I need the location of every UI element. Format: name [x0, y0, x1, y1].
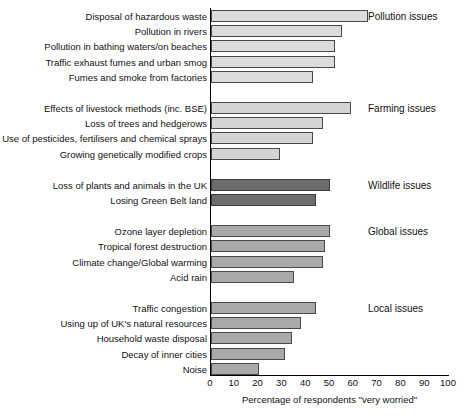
x-tick-label: 10	[229, 377, 240, 388]
bar	[211, 302, 316, 314]
category-label: Loss of plants and animals in the UK	[53, 178, 207, 193]
bar	[211, 179, 330, 191]
group-title: Global issues	[368, 224, 428, 239]
category-label: Pollution in bathing waters/on beaches	[44, 39, 207, 54]
bar	[211, 71, 313, 83]
bar	[211, 117, 323, 129]
category-label: Losing Green Belt land	[110, 193, 207, 208]
chart-row: Household waste disposal	[0, 331, 466, 346]
category-label: Disposal of hazardous waste	[86, 9, 207, 24]
category-label: Climate change/Global warming	[72, 255, 207, 270]
bar	[211, 56, 335, 68]
category-label: Ozone layer depletion	[115, 224, 207, 239]
group-title: Pollution issues	[368, 9, 437, 24]
bar	[211, 363, 259, 375]
bar	[211, 225, 330, 237]
x-tick-label: 60	[348, 377, 359, 388]
x-tick-label: 70	[371, 377, 382, 388]
category-label: Acid rain	[170, 270, 207, 285]
group-title: Local issues	[368, 301, 423, 316]
group-title: Wildlife issues	[368, 178, 431, 193]
category-label: Noise	[183, 362, 207, 377]
category-label: Traffic congestion	[133, 301, 207, 316]
x-tick-label: 30	[276, 377, 287, 388]
x-tick-label: 40	[300, 377, 311, 388]
x-tick-label: 20	[252, 377, 263, 388]
y-axis-line	[210, 8, 211, 375]
category-label: Household waste disposal	[97, 331, 207, 346]
chart-row: Tropical forest destruction	[0, 239, 466, 254]
bar	[211, 348, 285, 360]
category-label: Tropical forest destruction	[98, 239, 207, 254]
chart-row: Climate change/Global warming	[0, 255, 466, 270]
x-axis-title: Percentage of respondents "very worried"	[210, 394, 449, 405]
chart-row: Loss of trees and hedgerows	[0, 116, 466, 131]
group-title: Farming issues	[368, 101, 436, 116]
bar	[211, 332, 292, 344]
bar-chart: Disposal of hazardous wastePollution in …	[0, 0, 466, 418]
x-tick-label: 100	[440, 377, 456, 388]
category-label: Decay of inner cities	[121, 347, 207, 362]
chart-row: Losing Green Belt land	[0, 193, 466, 208]
chart-row: Using up of UK's natural resources	[0, 316, 466, 331]
category-label: Effects of livestock methods (inc. BSE)	[44, 101, 207, 116]
x-axis-line	[210, 375, 449, 376]
bar	[211, 10, 368, 22]
category-label: Use of pesticides, fertilisers and chemi…	[2, 131, 207, 146]
bar	[211, 40, 335, 52]
bar	[211, 132, 313, 144]
chart-row: Use of pesticides, fertilisers and chemi…	[0, 131, 466, 146]
category-label: Loss of trees and hedgerows	[85, 116, 207, 131]
chart-row: Pollution in rivers	[0, 24, 466, 39]
bar	[211, 25, 342, 37]
chart-row: Growing genetically modified crops	[0, 147, 466, 162]
bar	[211, 271, 294, 283]
x-tick-label: 0	[207, 377, 212, 388]
chart-row: Fumes and smoke from factories	[0, 70, 466, 85]
category-label: Pollution in rivers	[135, 24, 207, 39]
bar	[211, 148, 280, 160]
category-label: Traffic exhaust fumes and urban smog	[45, 55, 207, 70]
bar	[211, 194, 316, 206]
bar	[211, 102, 351, 114]
bar	[211, 317, 301, 329]
chart-row: Decay of inner cities	[0, 347, 466, 362]
chart-row: Pollution in bathing waters/on beaches	[0, 39, 466, 54]
category-label: Using up of UK's natural resources	[61, 316, 208, 331]
category-label: Fumes and smoke from factories	[69, 70, 207, 85]
category-label: Growing genetically modified crops	[60, 147, 207, 162]
x-tick-label: 90	[419, 377, 430, 388]
bar	[211, 256, 323, 268]
x-tick-label: 80	[395, 377, 406, 388]
chart-row: Acid rain	[0, 270, 466, 285]
chart-row: Traffic exhaust fumes and urban smog	[0, 55, 466, 70]
x-tick-label: 50	[324, 377, 335, 388]
bar	[211, 240, 325, 252]
